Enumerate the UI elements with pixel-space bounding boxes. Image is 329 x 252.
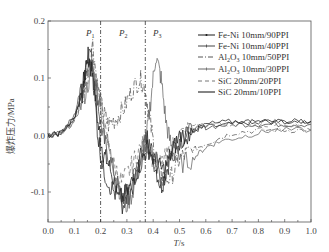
legend-label: Al2O3 10mm/50PPI xyxy=(218,52,289,63)
y-axis-labels: 0.2 0.1 0.0 -0.1 xyxy=(31,16,46,197)
legend-label: Fe-Ni 10mm/40PPI xyxy=(218,41,289,51)
x-tick-label: 0.7 xyxy=(226,226,238,236)
x-tick-label: 0.6 xyxy=(200,226,212,236)
legend-marker xyxy=(206,34,208,36)
x-axis-title-unit: /s xyxy=(179,238,186,248)
phase-label-p3: P3 xyxy=(152,28,162,39)
y-axis-title: 爆炸压力/MPa xyxy=(5,98,16,154)
legend-item-sic-10ppi: SiC 20mm/10PPI xyxy=(198,87,281,97)
x-tick-label: 1.0 xyxy=(305,226,317,236)
x-tick-label: 0.3 xyxy=(121,226,133,236)
legend-item-al2o3-30ppi: Al2O3 10mm/30PPI xyxy=(198,64,289,75)
legend-label: SiC 20mm/10PPI xyxy=(218,87,281,97)
x-tick-label: 0.1 xyxy=(69,226,80,236)
y-tick-label: -0.1 xyxy=(31,187,45,197)
legend-item-fe-ni-40ppi: Fe-Ni 10mm/40PPI xyxy=(198,41,289,51)
y-tick-label: 0.2 xyxy=(34,16,45,26)
x-tick-label: 0.8 xyxy=(253,226,265,236)
legend-label: Fe-Ni 10mm/90PPI xyxy=(218,30,289,40)
legend-label: Al2O3 10mm/30PPI xyxy=(218,64,289,75)
legend-label: SiC 20mm/20PPI xyxy=(218,76,281,86)
y-axis-ticks xyxy=(48,21,51,192)
x-tick-label: 0.9 xyxy=(279,226,291,236)
legend-item-al2o3-50ppi: Al2O3 10mm/50PPI xyxy=(198,52,289,63)
y-tick-label: 0.1 xyxy=(34,73,45,83)
chart-svg: 0.2 0.1 0.0 -0.1 0.0 0.1 0.2 0.3 0.4 0.5… xyxy=(0,0,329,252)
y-tick-label: 0.0 xyxy=(34,131,46,141)
x-tick-label: 0.0 xyxy=(42,226,54,236)
phase-label-p2: P2 xyxy=(118,28,128,39)
x-axis-labels: 0.0 0.1 0.2 0.3 0.4 0.5 0.6 0.7 0.8 0.9 … xyxy=(42,226,317,236)
legend-item-fe-ni-90ppi: Fe-Ni 10mm/90PPI xyxy=(198,30,289,40)
phase-label-p1: P1 xyxy=(85,28,95,39)
x-tick-label: 0.2 xyxy=(95,226,106,236)
legend-item-sic-20ppi: SiC 20mm/20PPI xyxy=(198,76,281,86)
x-tick-label: 0.4 xyxy=(148,226,160,236)
x-axis-ticks xyxy=(48,219,311,222)
legend: Fe-Ni 10mm/90PPI Fe-Ni 10mm/40PPI Al2O3 … xyxy=(198,30,289,97)
x-tick-label: 0.5 xyxy=(174,226,186,236)
x-axis-title: T/s xyxy=(173,238,185,248)
